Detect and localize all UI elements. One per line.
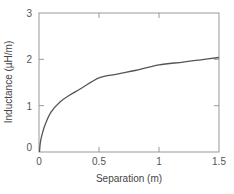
x-tick-label: 0.5 [92, 156, 106, 167]
tick-labels: 00.511.50123 [26, 8, 226, 167]
y-tick-label: 1 [26, 101, 32, 112]
plot-frame [39, 13, 219, 152]
axis-ticks [39, 13, 219, 152]
x-tick-label: 1 [156, 156, 162, 167]
y-tick-label: 2 [26, 54, 32, 65]
x-axis-label: Separation (m) [96, 173, 162, 184]
y-tick-label: 3 [26, 8, 32, 19]
x-tick-label: 1.5 [212, 156, 226, 167]
y-tick-label: 0 [26, 142, 32, 153]
chart: 00.511.50123 Separation (m) Inductance (… [0, 0, 234, 194]
y-axis-label: Inductance (µH/m) [3, 41, 14, 123]
inductance-curve [40, 58, 220, 153]
x-tick-label: 0 [36, 156, 42, 167]
